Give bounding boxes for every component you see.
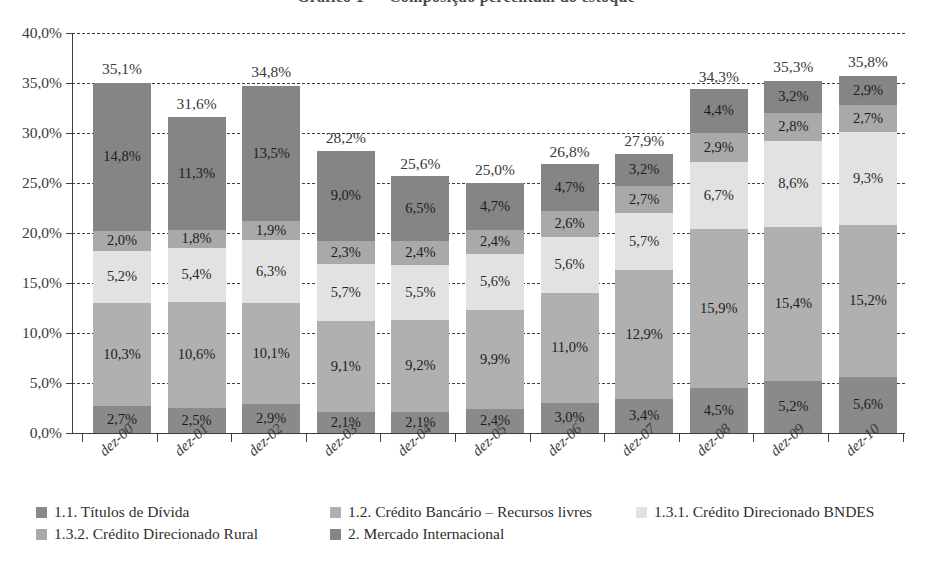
bar-segment-label: 9,2% xyxy=(405,358,435,373)
y-axis-tick-label: 25,0% xyxy=(0,174,62,192)
bar-segment[interactable]: 13,5% xyxy=(242,86,300,221)
bar-segment[interactable]: 9,3% xyxy=(839,132,897,225)
bar-segment[interactable]: 2,9% xyxy=(839,76,897,105)
bar-segment[interactable]: 1,8% xyxy=(168,230,226,248)
legend-swatch-icon xyxy=(36,529,47,540)
bar-stack[interactable]: 2,9%2,7%9,3%15,2%5,6%35,8% xyxy=(839,76,897,433)
bar-segment[interactable]: 2,7% xyxy=(839,105,897,132)
bar-segment-label: 14,8% xyxy=(103,149,140,164)
bar-segment-label: 2,7% xyxy=(629,192,659,207)
bar-segment[interactable]: 12,9% xyxy=(615,270,673,399)
bar-segment-label: 9,0% xyxy=(331,188,361,203)
bar-stack[interactable]: 11,3%1,8%5,4%10,6%2,5%31,6% xyxy=(168,117,226,433)
bar-segment-label: 4,7% xyxy=(554,180,584,195)
bar-segment-label: 3,4% xyxy=(629,408,659,423)
bar-segment[interactable]: 3,2% xyxy=(615,154,673,186)
bar-segment[interactable]: 14,8% xyxy=(93,83,151,231)
legend-item[interactable]: 2. Mercado Internacional xyxy=(330,525,504,543)
bar-segment-label: 9,1% xyxy=(331,359,361,374)
bar-segment[interactable]: 10,6% xyxy=(168,302,226,408)
bar-segment-label: 10,6% xyxy=(178,347,215,362)
x-axis-tick-mark xyxy=(231,433,232,442)
bar-segment[interactable]: 5,6% xyxy=(466,254,524,310)
bar-segment-label: 2,0% xyxy=(107,233,137,248)
legend-item[interactable]: 1.3.1. Crédito Direcionado BNDES xyxy=(636,503,874,521)
bar-segment-label: 6,5% xyxy=(405,201,435,216)
legend-swatch-icon xyxy=(36,507,47,518)
bar-stack[interactable]: 14,8%2,0%5,2%10,3%2,7%35,1% xyxy=(93,83,151,433)
bar-segment[interactable]: 8,6% xyxy=(764,141,822,227)
bar-segment[interactable]: 9,9% xyxy=(466,310,524,409)
bar-stack[interactable]: 4,4%2,9%6,7%15,9%4,5%34,3% xyxy=(690,89,748,433)
bar-segment[interactable]: 2,7% xyxy=(615,186,673,213)
bar-segment[interactable]: 10,1% xyxy=(242,303,300,404)
bar-stack[interactable]: 3,2%2,7%5,7%12,9%3,4%27,9% xyxy=(615,154,673,433)
bar-stack[interactable]: 4,7%2,4%5,6%9,9%2,4%25,0% xyxy=(466,183,524,433)
x-axis-tick-mark xyxy=(380,433,381,442)
bar-segment[interactable]: 2,6% xyxy=(541,211,599,237)
bar-segment[interactable]: 9,1% xyxy=(317,321,375,412)
bar-stack[interactable]: 3,2%2,8%8,6%15,4%5,2%35,3% xyxy=(764,81,822,433)
bar-segment[interactable]: 11,3% xyxy=(168,117,226,230)
legend-item[interactable]: 1.3.2. Crédito Direcionado Rural xyxy=(36,525,258,543)
bar-stack[interactable]: 4,7%2,6%5,6%11,0%3,0%26,8% xyxy=(541,164,599,433)
bar-segment[interactable]: 5,6% xyxy=(541,237,599,293)
bar-segment[interactable]: 15,2% xyxy=(839,225,897,377)
bar-segment[interactable]: 5,5% xyxy=(391,265,449,320)
bar-segment-label: 8,6% xyxy=(778,176,808,191)
legend-item[interactable]: 1.2. Crédito Bancário – Recursos livres xyxy=(330,503,592,521)
x-axis-tick-mark xyxy=(455,433,456,442)
bar-segment[interactable]: 6,3% xyxy=(242,240,300,303)
chart-figure: Gráfico 1 — Composição percentual do est… xyxy=(0,0,932,561)
bar-segment[interactable]: 5,4% xyxy=(168,248,226,302)
bar-total-label: 35,3% xyxy=(755,58,831,76)
bar-segment[interactable]: 9,2% xyxy=(391,320,449,412)
bar-segment[interactable]: 15,9% xyxy=(690,229,748,388)
bar-stack[interactable]: 13,5%1,9%6,3%10,1%2,9%34,8% xyxy=(242,86,300,433)
bar-segment-label: 11,3% xyxy=(178,166,215,181)
bar-segment[interactable]: 5,7% xyxy=(615,213,673,270)
bar-stack[interactable]: 6,5%2,4%5,5%9,2%2,1%25,6% xyxy=(391,176,449,433)
bar-segment-label: 15,2% xyxy=(849,293,886,308)
bar-segment-label: 4,5% xyxy=(704,403,734,418)
y-axis-tick-label: 35,0% xyxy=(0,74,62,92)
bar-segment[interactable]: 3,2% xyxy=(764,81,822,113)
bar-segment-label: 1,9% xyxy=(256,223,286,238)
bar-segment[interactable]: 5,2% xyxy=(93,251,151,303)
bar-segment[interactable]: 1,9% xyxy=(242,221,300,240)
bar-stack[interactable]: 9,0%2,3%5,7%9,1%2,1%28,2% xyxy=(317,151,375,433)
bar-segment-label: 5,2% xyxy=(107,269,137,284)
bar-total-label: 25,0% xyxy=(457,161,533,179)
bar-segment-label: 4,4% xyxy=(704,103,734,118)
bar-segment[interactable]: 4,7% xyxy=(541,164,599,211)
bar-segment[interactable]: 5,7% xyxy=(317,264,375,321)
chart-legend: 1.1. Títulos de Dívida1.2. Crédito Bancá… xyxy=(36,503,916,547)
bar-segment[interactable]: 2,4% xyxy=(391,241,449,265)
bar-segment[interactable]: 9,0% xyxy=(317,151,375,241)
legend-row-2: 1.3.2. Crédito Direcionado Rural2. Merca… xyxy=(36,525,916,547)
legend-swatch-icon xyxy=(636,507,647,518)
bar-segment[interactable]: 4,7% xyxy=(466,183,524,230)
bar-segment-label: 15,4% xyxy=(775,296,812,311)
bar-segment-label: 13,5% xyxy=(252,146,289,161)
bar-segment[interactable]: 6,5% xyxy=(391,176,449,241)
legend-item[interactable]: 1.1. Títulos de Dívida xyxy=(36,503,189,521)
bar-segment-label: 2,6% xyxy=(554,216,584,231)
y-axis-tick-mark xyxy=(66,283,72,284)
bar-segment-label: 2,9% xyxy=(704,140,734,155)
y-axis-tick-mark xyxy=(66,383,72,384)
bar-segment[interactable]: 11,0% xyxy=(541,293,599,403)
bar-segment[interactable]: 4,4% xyxy=(690,89,748,133)
bar-segment[interactable]: 2,0% xyxy=(93,231,151,251)
bar-segment[interactable]: 2,9% xyxy=(690,133,748,162)
bar-segment[interactable]: 15,4% xyxy=(764,227,822,381)
bar-segment[interactable]: 2,4% xyxy=(466,230,524,254)
bar-segment-label: 2,4% xyxy=(480,234,510,249)
bar-segment[interactable]: 6,7% xyxy=(690,162,748,229)
bar-segment-label: 2,3% xyxy=(331,245,361,260)
bar-segment[interactable]: 2,8% xyxy=(764,113,822,141)
bar-total-label: 25,6% xyxy=(382,155,458,173)
bar-segment[interactable]: 2,3% xyxy=(317,241,375,264)
bar-segment[interactable]: 10,3% xyxy=(93,303,151,406)
bar-segment-label: 5,4% xyxy=(181,267,211,282)
